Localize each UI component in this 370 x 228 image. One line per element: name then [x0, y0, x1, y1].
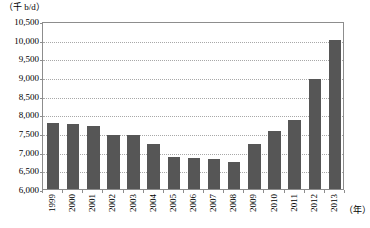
bar — [168, 157, 180, 189]
x-tick-label-text: 2009 — [249, 194, 258, 212]
x-tick-mark — [123, 190, 124, 193]
bar — [228, 162, 240, 189]
bar — [248, 144, 260, 189]
y-tick-label: 6,000 — [0, 185, 39, 195]
x-tick-mark — [143, 190, 144, 193]
x-tick-label-text: 2011 — [290, 194, 299, 212]
x-tick-label-text: 2003 — [129, 194, 138, 212]
bar — [127, 135, 139, 189]
bar — [87, 126, 99, 189]
x-tick-label-text: 2013 — [330, 194, 339, 212]
y-tick-label: 10,000 — [0, 36, 39, 46]
x-tick-label-text: 2005 — [169, 194, 178, 212]
bar — [268, 131, 280, 189]
bar — [288, 120, 300, 189]
x-axis-unit-label: （年） — [344, 205, 370, 215]
x-tick-mark — [62, 190, 63, 193]
y-tick-label: 7,000 — [0, 148, 39, 158]
x-tick-label-text: 2007 — [209, 194, 218, 212]
y-axis-tick-labels: 10,50010,0009,5009,0008,5008,0007,5007,0… — [0, 0, 39, 228]
bar — [67, 124, 79, 189]
y-tick-label: 10,500 — [0, 17, 39, 27]
x-tick-mark — [42, 190, 43, 193]
x-tick-mark — [284, 190, 285, 193]
y-tick-label: 8,000 — [0, 110, 39, 120]
x-tick-mark — [102, 190, 103, 193]
bar — [329, 40, 341, 189]
x-tick-label-text: 2002 — [108, 194, 117, 212]
y-tick-label: 9,500 — [0, 54, 39, 64]
plot-area — [42, 22, 344, 190]
x-tick-mark — [304, 190, 305, 193]
x-tick-label-text: 2006 — [189, 194, 198, 212]
bar — [47, 123, 59, 189]
bar — [309, 79, 321, 189]
bar — [147, 144, 159, 189]
y-tick-label: 9,000 — [0, 73, 39, 83]
y-tick-label: 8,500 — [0, 92, 39, 102]
x-tick-label-text: 2012 — [310, 194, 319, 212]
x-tick-mark — [344, 190, 345, 193]
bar — [188, 158, 200, 189]
bar — [107, 135, 119, 189]
x-tick-mark — [223, 190, 224, 193]
x-tick-label-text: 2000 — [68, 194, 77, 212]
x-tick-mark — [163, 190, 164, 193]
x-tick-label-text: 1999 — [48, 194, 57, 212]
x-tick-label-text: 2004 — [149, 194, 158, 212]
y-tick-label: 7,500 — [0, 129, 39, 139]
x-tick-mark — [263, 190, 264, 193]
x-tick-mark — [203, 190, 204, 193]
y-tick-label: 6,500 — [0, 166, 39, 176]
bar — [208, 159, 220, 189]
x-tick-mark — [82, 190, 83, 193]
x-tick-label-text: 2008 — [229, 194, 238, 212]
x-tick-mark — [243, 190, 244, 193]
x-axis: 1999200020012002200320042005200620072008… — [42, 190, 344, 228]
x-tick-mark — [324, 190, 325, 193]
x-tick-mark — [183, 190, 184, 193]
x-tick-label-text: 2010 — [270, 194, 279, 212]
x-tick-label-text: 2001 — [88, 194, 97, 212]
bar-series — [43, 23, 343, 189]
